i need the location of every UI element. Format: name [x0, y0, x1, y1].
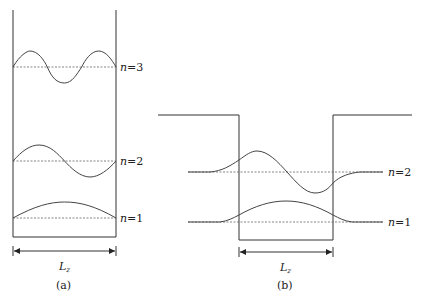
level-n1-b: n=1: [188, 201, 411, 229]
caption-b: (b): [277, 279, 293, 292]
caption-a: (a): [56, 279, 71, 292]
panel-b: n=2 n=1 Lz (b): [158, 115, 412, 292]
infinite-well-walls: [13, 10, 116, 237]
level-n2-b: n=2: [188, 151, 411, 193]
level-n1-a: n=1: [13, 202, 143, 225]
width-indicator-a: Lz: [13, 246, 116, 274]
level-label-n3: n=3: [120, 61, 143, 74]
level-n2-a: n=2: [13, 145, 143, 177]
width-label-b: Lz: [279, 261, 291, 275]
level-label-n2: n=2: [120, 155, 143, 168]
level-label-n1: n=1: [388, 216, 411, 229]
finite-well-potential: [158, 115, 412, 240]
quantum-well-diagram: n=3 n=2 n=1 Lz (a): [0, 0, 421, 298]
level-label-n2: n=2: [388, 166, 411, 179]
level-n3-a: n=3: [13, 51, 143, 83]
wavefunction-n1: [13, 202, 116, 218]
width-label-a: Lz: [58, 260, 70, 274]
wavefunction-n1: [188, 201, 383, 222]
panel-a: n=3 n=2 n=1 Lz (a): [13, 10, 143, 292]
width-indicator-b: Lz: [239, 247, 333, 275]
level-label-n1: n=1: [120, 212, 143, 225]
